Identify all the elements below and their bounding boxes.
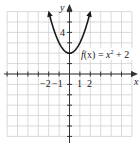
y-tick-label-4: 4 — [60, 27, 65, 38]
function-label: f(x) = x2 + 2 — [81, 49, 129, 61]
x-tick-label-neg2: −2 — [40, 78, 51, 89]
x-tick-label-neg1: −1 — [52, 78, 63, 89]
x-axis-label: x — [133, 76, 139, 87]
coordinate-plane: y x 4 −2 −1 1 2 f(x) = x2 + 2 — [0, 0, 140, 146]
graph-figure: y x 4 −2 −1 1 2 f(x) = x2 + 2 — [0, 0, 140, 146]
x-tick-label-2: 2 — [87, 78, 92, 89]
x-tick-label-1: 1 — [77, 78, 82, 89]
y-axis-arrow-icon — [67, 4, 73, 11]
y-axis-label: y — [59, 2, 65, 13]
